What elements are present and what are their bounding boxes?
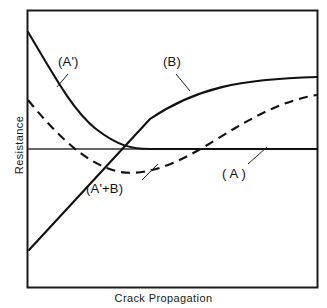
curve-label-a-prime: (A') xyxy=(58,54,79,69)
leader-line-a-prime xyxy=(57,74,68,87)
curve-a-prime xyxy=(28,32,317,149)
y-axis-title: Resistance xyxy=(13,95,25,195)
curve-label-a: ( A ) xyxy=(222,166,246,181)
x-axis-title: Crack Propagation xyxy=(0,292,327,304)
leader-line-b xyxy=(176,74,190,91)
curve-label-a-plus-b: (A'+B) xyxy=(86,181,123,196)
curve-label-b: (B) xyxy=(163,54,181,69)
figure-root: (A') (B) (A'+B) ( A ) Resistance Crack P… xyxy=(0,0,327,308)
plot-canvas xyxy=(0,0,327,308)
